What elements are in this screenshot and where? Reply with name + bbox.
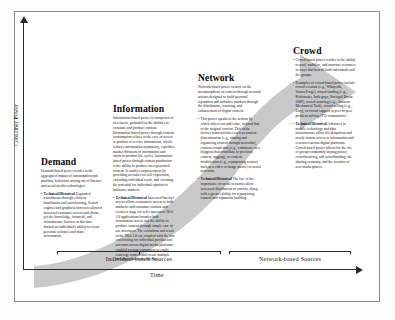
stage-heading-information: Information — [113, 104, 175, 114]
bullet-title: Technical/Historical — [296, 122, 327, 126]
bullet-title: Technical/Historical — [44, 192, 75, 196]
bullet-text: Increased Internet access allows consume… — [116, 196, 175, 262]
stage-intro-network: Network-based power centers on the metam… — [198, 85, 261, 114]
bullet-text: Examples of crowd-based power include cr… — [296, 81, 355, 118]
span-network-label: Network-based Sources — [229, 255, 351, 262]
span-rule — [229, 251, 351, 252]
bullet-title: Technical/Historical — [116, 196, 147, 200]
span-tick-start — [57, 251, 58, 254]
stage-block-demand: Demand Demand-based power resides in the… — [41, 157, 102, 239]
bullet-text: This power speaks to the actions by whic… — [201, 117, 261, 173]
stage-heading-demand: Demand — [41, 157, 102, 167]
stage-bullet: Technical/Historical Increased Internet … — [113, 196, 175, 263]
y-axis-line — [23, 22, 24, 270]
stage-block-crowd: Crowd Crowd-based power resides in the a… — [293, 46, 356, 169]
bullet-text: Crowd-based power resides in the ability… — [296, 58, 356, 76]
stage-block-information: Information Information-based power is c… — [113, 104, 175, 262]
span-tick-end — [350, 251, 351, 254]
span-tick-end — [220, 251, 221, 254]
stage-intro-information: Information-based power is comprised of … — [113, 116, 175, 192]
stage-bullet: Technical/Historical Advances in mobile … — [293, 122, 356, 170]
stage-bullet: Examples of crowd-based power include cr… — [293, 81, 356, 119]
x-axis-line — [23, 269, 357, 270]
stage-bullet: This power speaks to the actions by whic… — [198, 117, 261, 174]
stage-intro-demand: Demand-based power resides in the aggreg… — [41, 169, 102, 188]
stage-bullet: Crowd-based power resides in the ability… — [293, 58, 356, 77]
stage-heading-network: Network — [198, 73, 261, 83]
bullet-text: Expanded assortments through efficient d… — [44, 192, 102, 239]
stage-block-network: Network Network-based power centers on t… — [198, 73, 261, 201]
y-axis-label: Consumer Power — [13, 65, 19, 185]
x-axis-arrowhead — [356, 266, 363, 274]
span-tick-start — [229, 251, 230, 254]
bullet-text: Advances in mobile technology and data i… — [296, 122, 354, 169]
stage-bullet: Technical/Historical The rise of the imp… — [198, 177, 261, 201]
stage-heading-crowd: Crowd — [293, 46, 356, 56]
figure-canvas: Consumer Power Time Individual-based Sou… — [0, 0, 395, 320]
x-axis-label: Time — [150, 271, 164, 278]
stage-bullet: Technical/Historical Expanded assortment… — [41, 192, 102, 240]
bullet-title: Technical/Historical — [201, 177, 232, 181]
